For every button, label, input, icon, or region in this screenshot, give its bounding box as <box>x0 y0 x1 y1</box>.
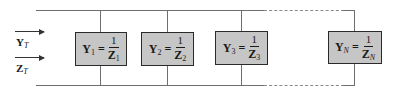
numerator: 1 <box>176 35 186 48</box>
subscript: T <box>23 67 27 76</box>
bottom-rail-solid <box>36 85 264 86</box>
numerator: 1 <box>364 34 374 47</box>
branch-2-wire-top <box>167 10 168 33</box>
branch-3-wire-top <box>241 10 242 32</box>
equals-sign: = <box>164 42 171 57</box>
impedance-input-arrow <box>15 57 44 58</box>
branch-3-equation: Y3 = 1 Z3 <box>223 34 261 62</box>
branch-3-wire-bottom <box>241 64 242 86</box>
numerator: 1 <box>250 34 260 47</box>
bottom-rail-dashed <box>264 85 344 86</box>
denominator: Z1 <box>108 48 120 63</box>
branch-2-admittance-box: Y2 = 1 Z2 <box>141 32 194 66</box>
branch-2-wire-bottom <box>167 65 168 86</box>
denominator: Z2 <box>174 48 186 63</box>
reciprocal-fraction: 1 Z3 <box>248 34 260 62</box>
branch-1-equation: Y1 = 1 Z1 <box>82 35 120 63</box>
admittance-input-arrow <box>15 31 44 32</box>
branch-n-admittance-box: YN = 1 ZN <box>328 31 382 64</box>
total-impedance-label: ZT <box>16 62 28 76</box>
branch-1-admittance-box: Y1 = 1 Z1 <box>75 32 127 66</box>
reciprocal-fraction: 1 Z1 <box>108 35 120 63</box>
total-admittance-label: YT <box>16 36 28 50</box>
admittance-symbol: Y3 <box>223 41 236 56</box>
reciprocal-fraction: 1 Z2 <box>174 35 186 63</box>
admittance-symbol: Y2 <box>149 42 162 57</box>
numerator: 1 <box>109 35 119 48</box>
subscript: T <box>24 41 28 50</box>
top-rail-dashed <box>264 10 344 11</box>
equals-sign: = <box>352 40 359 55</box>
admittance-symbol: YN <box>335 40 349 55</box>
symbol: Y <box>16 36 24 48</box>
branch-1-wire-bottom <box>100 65 101 86</box>
denominator: ZN <box>362 47 375 62</box>
branch-n-equation: YN = 1 ZN <box>335 34 375 62</box>
equals-sign: = <box>238 41 245 56</box>
top-rail-solid <box>36 10 264 11</box>
branch-n-wire-top <box>354 10 355 32</box>
branch-1-wire-top <box>100 10 101 33</box>
denominator: Z3 <box>248 47 260 62</box>
admittance-symbol: Y1 <box>82 42 95 57</box>
branch-2-equation: Y2 = 1 Z2 <box>149 35 187 63</box>
reciprocal-fraction: 1 ZN <box>362 34 375 62</box>
branch-3-admittance-box: Y3 = 1 Z3 <box>215 31 268 65</box>
equals-sign: = <box>98 42 105 57</box>
branch-n-wire-bottom <box>354 63 355 86</box>
